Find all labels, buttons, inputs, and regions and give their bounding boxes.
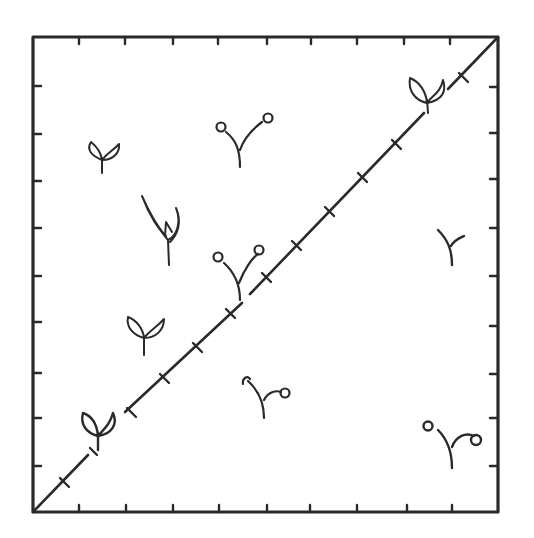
seedling-two-leaf-icon [89,142,119,173]
seedling-hook-icon [438,230,464,265]
seedling-curled-icon [243,377,290,418]
seedling-sheath-icon [142,196,179,265]
seedling-two-leaf-icon [410,78,445,113]
seedling-curled-icon [217,114,273,168]
seedling-curled-icon [424,422,482,469]
seedling-diagram [0,0,534,538]
seedling-two-leaf-icon [82,413,115,450]
seedling-curled-icon [214,246,264,301]
seedling-two-leaf-icon [128,317,164,355]
